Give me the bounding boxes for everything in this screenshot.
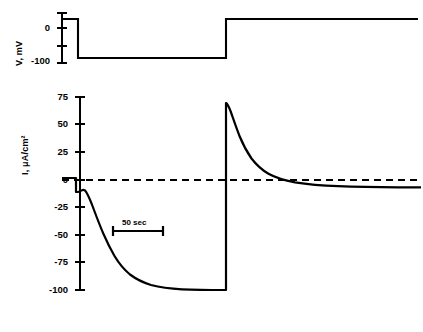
current-tick-75: 75: [36, 91, 68, 102]
current-axis: [75, 97, 85, 290]
current-tick-50: 50: [36, 118, 68, 129]
figure-canvas: [0, 0, 423, 332]
electrophysiology-figure: V, mV 0 -100: [0, 0, 423, 332]
current-tick-minus100: -100: [20, 284, 68, 295]
scale-bar: [113, 226, 163, 236]
current-tick-25: 25: [36, 146, 68, 157]
voltage-axis: [57, 13, 67, 63]
current-trace: [62, 103, 421, 290]
scale-bar-label: 50 sec: [122, 218, 146, 227]
voltage-command-trace: [63, 19, 418, 58]
current-tick-minus25: -25: [26, 201, 68, 212]
current-tick-minus75: -75: [26, 256, 68, 267]
current-axis-label: I, μA/cm²: [20, 135, 30, 175]
current-tick-minus50: -50: [26, 229, 68, 240]
current-tick-0: 0: [36, 174, 68, 185]
